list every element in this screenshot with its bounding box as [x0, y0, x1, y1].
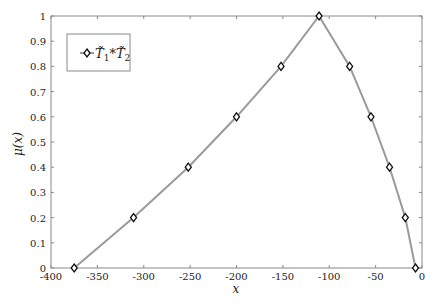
x-tick-label: -50 — [368, 271, 384, 282]
line-chart: -400-350-300-250-200-150-100-500 00.10.2… — [0, 0, 438, 306]
y-axis-label: μ(x) — [11, 132, 25, 156]
x-tick-label: -150 — [272, 271, 294, 282]
x-tick-label: -350 — [86, 271, 108, 282]
x-tick-label: -100 — [318, 271, 340, 282]
x-tick-label: -250 — [179, 271, 201, 282]
y-tick-label: 0.9 — [30, 36, 46, 47]
x-tick-label: 0 — [419, 271, 425, 282]
legend: T̃1*T̃2 — [67, 34, 130, 71]
x-tick-label: -300 — [133, 271, 155, 282]
legend-label-sub2: 2 — [125, 53, 131, 63]
y-tick-label: 0.5 — [30, 137, 46, 148]
y-tick-label: 0.8 — [30, 61, 46, 72]
y-tick-label: 1 — [40, 11, 46, 22]
y-tick-label: 0.7 — [30, 87, 46, 98]
y-tick-label: 0.1 — [30, 238, 46, 249]
y-tick-label: 0.2 — [30, 213, 46, 224]
x-tick-label: -200 — [225, 271, 247, 282]
x-axis-label: x — [233, 282, 240, 296]
y-tick-label: 0 — [40, 263, 46, 274]
y-tick-label: 0.6 — [30, 112, 46, 123]
y-tick-label: 0.4 — [30, 162, 46, 173]
y-tick-label: 0.3 — [30, 187, 46, 198]
